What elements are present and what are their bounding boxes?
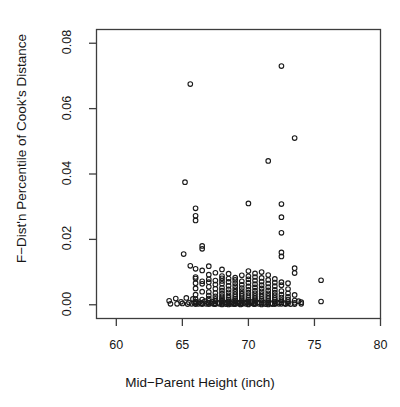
x-tick-label: 80	[361, 338, 400, 352]
y-tick-label: 0.06	[60, 88, 74, 128]
x-tick-label: 65	[162, 338, 202, 352]
x-axis-title: Mid−Parent Height (inch)	[0, 375, 400, 390]
y-axis-title: F−Dist'n Percentile of Cook's Distance	[14, 0, 34, 297]
y-tick-label: 0.04	[60, 153, 74, 193]
y-tick-label: 0.02	[60, 218, 74, 258]
y-tick-label: 0.08	[60, 22, 74, 62]
x-tick-label: 75	[294, 338, 334, 352]
y-tick-label: 0.00	[60, 284, 74, 324]
scatter-plot-figure: Mid−Parent Height (inch) F−Dist'n Percen…	[0, 0, 400, 407]
x-tick-label: 60	[96, 338, 136, 352]
x-tick-label: 70	[228, 338, 268, 352]
